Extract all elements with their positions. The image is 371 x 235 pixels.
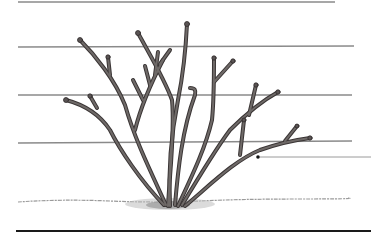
- shrub-stems: [64, 22, 313, 207]
- wire-4: [18, 141, 352, 143]
- pointer-dot: [256, 155, 260, 159]
- illustration-canvas: [0, 0, 371, 235]
- shrub-pruning-illustration: pruned shrub trained on horizontal wires: [0, 0, 371, 235]
- callout-pointer: [256, 155, 371, 159]
